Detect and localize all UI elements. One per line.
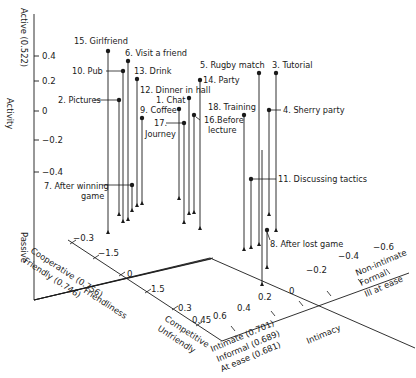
label-17-journey: Journey	[144, 129, 176, 139]
tick-intimacy-0.6: 0.6	[213, 311, 227, 321]
label-7-after-winning: 7. After winning	[44, 181, 109, 191]
label-12-dinner-in-hall: 12. Dinner in hall	[140, 85, 210, 95]
tick-friendliness-2: −1.5	[98, 248, 119, 258]
label-6-visit-a-friend: 6. Visit a friend	[125, 48, 187, 58]
tick-activity-neg0.2: −0.2	[42, 135, 63, 145]
tick-intimacy-0.2: 0.2	[258, 292, 272, 302]
tick-intimacy-neg0.2: −0.2	[306, 265, 327, 275]
label-9-coffee: 9. Coffee	[140, 105, 177, 115]
label-15-girlfriend: 15. Girlfriend	[74, 36, 128, 46]
label-11-discussing-tactics: 11. Discussing tactics	[278, 174, 367, 184]
label-8-after-lost-game: 8. After lost game	[270, 239, 343, 249]
friendliness-axis-title: Friendliness	[82, 285, 129, 320]
tick-activity-0.2: 0.2	[42, 76, 56, 86]
active-pole-label: Active (0.522)	[19, 8, 29, 67]
tick-friendliness-5: 0.3	[178, 303, 192, 313]
tick-intimacy-neg0.6: −0.6	[373, 242, 394, 252]
3d-stem-chart: 0.4 0.2 0 −0.2 −0.4 Active (0.522) Activ…	[0, 0, 416, 378]
tick-intimacy-0: 0	[289, 286, 294, 296]
label-7-game: game	[81, 191, 104, 201]
tick-friendliness-1: −0.3	[73, 233, 94, 243]
tick-activity-neg0.4: −0.4	[42, 167, 63, 177]
label-4-sherry-party: 4. Sherry party	[283, 105, 345, 115]
activity-axis-title: Activity	[5, 98, 15, 129]
tick-activity-0.4: 0.4	[42, 51, 56, 61]
tick-intimacy-neg0.4: −0.4	[338, 251, 359, 261]
label-2-pictures: 2. Pictures	[58, 95, 101, 105]
label-5-rugby-match: 5. Rugby match	[200, 60, 265, 70]
tick-friendliness-4: 1.5	[151, 284, 165, 294]
intimacy-axis-title: Intimacy	[305, 322, 342, 345]
label-16-before: 16.Before	[204, 115, 244, 125]
label-17-journey-num: 17.	[154, 118, 167, 128]
label-18-training: 18. Training	[208, 102, 256, 112]
friendliness-axis: −0.3 −1.5 0 1.5 0.3 0.45 Cooperative (0.…	[22, 233, 233, 355]
intimacy-axis: 0.6 0.4 0.2 0 −0.2 −0.4 −0.6 Intimate (0…	[209, 242, 409, 374]
tick-friendliness-6: 0.45	[192, 315, 211, 325]
label-1-chat: 1. Chat	[156, 95, 186, 105]
label-16-lecture: lecture	[208, 125, 236, 135]
label-3-tutorial: 3. Tutorial	[272, 60, 313, 70]
tick-activity-0: 0	[42, 106, 47, 116]
tick-intimacy-0.4: 0.4	[237, 303, 251, 313]
point-labels: 15. Girlfriend 6. Visit a friend 10. Pub…	[44, 36, 367, 249]
label-14-party: 14. Party	[203, 75, 240, 85]
label-13-drink: 13. Drink	[134, 66, 172, 76]
label-10-pub: 10. Pub	[72, 66, 103, 76]
